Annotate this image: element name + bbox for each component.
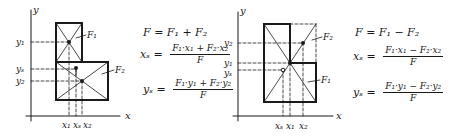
left-centroid-s-point xyxy=(74,66,78,70)
right-centroid-f1-point xyxy=(288,61,292,65)
left-tick-ys: yₛ xyxy=(15,64,24,74)
right-formula-ys: yₛ = F₁·y₁ − F₂·y₂ F xyxy=(353,82,443,103)
left-formula-total: F = F₁ + F₂ xyxy=(143,27,207,38)
right-centroid-s-point xyxy=(281,68,285,72)
left-y-axis-label: y xyxy=(32,4,39,15)
right-composite-figure xyxy=(233,12,333,121)
left-tick-y1: y₁ xyxy=(15,37,25,47)
left-formula-ys: yₛ = F₁·y₁ + F₂·y₂ F xyxy=(143,79,233,100)
left-formula-xs-lhs: xₛ = xyxy=(140,49,163,60)
right-formula-xs-denominator: F xyxy=(410,57,416,67)
right-tick-xs: xₛ xyxy=(275,121,283,131)
left-formula-ys-numerator: F₁·y₁ + F₂·y₂ xyxy=(173,79,233,90)
left-formula-xs-denominator: F xyxy=(197,55,203,65)
left-formula-xs: xₛ = F₁·x₁ + F₂·x₂ F xyxy=(140,44,230,65)
centroid-diagrams: y x y₁ yₛ y₂ x₁ xₛ x₂ F₁ F₂ y x y₂ y₁ yₛ… xyxy=(0,0,451,137)
left-formula-xs-numerator: F₁·x₁ + F₂·x₂ xyxy=(170,44,230,55)
left-formula-ys-lhs: yₛ = xyxy=(143,84,166,95)
right-formula-xs: xₛ = F₁·x₁ − F₂·x₂ F xyxy=(353,46,443,67)
left-centroid-f1-point xyxy=(67,40,71,44)
left-centroid-f2-point xyxy=(80,79,84,83)
right-centroid-f2-point xyxy=(301,41,305,45)
left-label-f2: F₂ xyxy=(114,65,125,75)
right-x-axis-label: x xyxy=(336,110,342,121)
right-label-f2: F₂ xyxy=(322,32,333,42)
left-formula-ys-denominator: F xyxy=(200,90,206,100)
left-tick-x1: x₁ xyxy=(62,120,71,130)
right-formula-xs-lhs: xₛ = xyxy=(353,51,376,62)
right-label-f1: F₁ xyxy=(320,75,331,85)
left-label-f1: F₁ xyxy=(86,30,97,40)
right-y-axis-label: y xyxy=(239,5,246,16)
right-formula-xs-numerator: F₁·x₁ − F₂·x₂ xyxy=(383,46,443,57)
right-formula-total: F = F₁ − F₂ xyxy=(355,27,419,38)
right-tick-ys: yₛ xyxy=(223,68,232,78)
right-tick-x1: x₁ xyxy=(286,121,295,131)
right-formula-ys-lhs: yₛ = xyxy=(353,87,376,98)
left-x-axis-label: x xyxy=(125,110,131,121)
left-tick-y2: y₂ xyxy=(15,76,25,86)
right-formula-ys-denominator: F xyxy=(410,93,416,103)
left-tick-x2: x₂ xyxy=(83,120,92,130)
left-composite-figure xyxy=(26,10,120,121)
right-tick-x2: x₂ xyxy=(299,121,308,131)
left-tick-xs: xₛ xyxy=(73,120,81,130)
right-formula-ys-numerator: F₁·y₁ − F₂·y₂ xyxy=(383,82,443,93)
